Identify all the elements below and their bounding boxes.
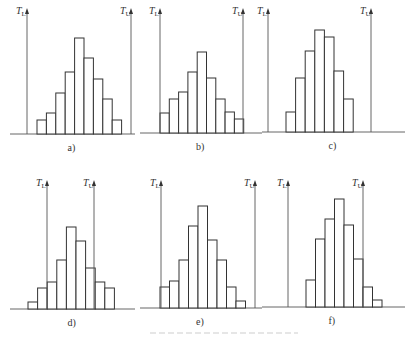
histogram-bar <box>105 288 115 309</box>
lower-limit-arrow-label: TL <box>257 5 267 18</box>
histogram-bar <box>216 99 225 133</box>
upper-limit-arrow-label: TU <box>244 177 255 190</box>
panel-c: TLTUc) <box>257 5 405 152</box>
histogram-bar <box>344 99 354 132</box>
histogram-bar <box>188 72 197 133</box>
histogram-bar <box>236 301 246 308</box>
histogram-figure: TLTUa)TLTUb)TLTUc)TLTUd)TLTUe)TLTUf) <box>0 0 409 338</box>
histogram-bar <box>93 79 102 134</box>
histogram-bar <box>76 241 86 309</box>
panel-a: TLTUa) <box>10 5 135 154</box>
histogram-bar <box>179 92 188 133</box>
histogram-bar <box>160 113 169 133</box>
upper-limit-arrow-label: TU <box>360 5 371 18</box>
panel-label: d) <box>68 317 76 329</box>
histogram-bar <box>95 282 105 309</box>
panel-f: TLTUf) <box>262 177 405 327</box>
histogram-bar <box>207 78 216 133</box>
histogram-bar <box>363 287 373 307</box>
panel-label: f) <box>329 315 336 327</box>
histogram-bar <box>286 112 296 132</box>
histogram-bar <box>334 71 344 132</box>
upper-limit-arrow-label: TU <box>352 177 363 190</box>
histogram-bar <box>189 226 199 308</box>
histogram-bar <box>354 259 364 307</box>
upper-limit-arrow-label: TU <box>83 177 94 190</box>
panel-label: e) <box>196 316 204 328</box>
histogram-bar <box>306 280 316 307</box>
histogram-bar <box>208 240 218 308</box>
histogram-bar <box>112 120 121 134</box>
histogram-bar <box>324 37 334 132</box>
panel-label: c) <box>329 140 337 152</box>
histogram-bar <box>170 281 180 308</box>
histogram-bar <box>234 119 243 133</box>
histogram-bar <box>169 99 178 133</box>
histogram-bar <box>179 260 189 308</box>
panel-label: b) <box>196 141 204 153</box>
histogram-bar <box>57 260 67 309</box>
histogram-bar <box>217 260 227 308</box>
histogram-bar <box>37 120 46 134</box>
histogram-bar <box>65 72 74 134</box>
lower-limit-arrow-label: TL <box>16 5 26 18</box>
histogram-bar <box>84 58 93 134</box>
histogram-bar <box>305 51 315 132</box>
histogram-bar <box>315 30 325 132</box>
histogram-bar <box>316 239 326 307</box>
panel-d: TLTUd) <box>10 177 135 329</box>
lower-limit-arrow-label: TL <box>277 177 287 190</box>
histogram-bar <box>38 288 48 309</box>
histogram-bar <box>56 93 65 134</box>
histogram-bar <box>103 99 112 134</box>
histogram-bar <box>197 52 206 133</box>
upper-limit-arrow-label: TU <box>232 5 243 18</box>
histogram-bar <box>28 302 38 309</box>
histogram-bar <box>335 199 345 307</box>
histogram-bar <box>325 219 335 307</box>
lower-limit-arrow-label: TL <box>149 5 159 18</box>
lower-limit-arrow-label: TL <box>36 177 46 190</box>
histogram-bar <box>198 206 208 308</box>
lower-limit-arrow-label: TL <box>150 177 160 190</box>
histogram-bar <box>47 282 57 309</box>
histogram-bar <box>227 287 237 308</box>
panel-b: TLTUb) <box>140 5 262 153</box>
panel-e: TLTUe) <box>140 177 262 328</box>
histogram-bar <box>373 300 383 307</box>
histogram-bar <box>75 38 84 134</box>
histogram-bar <box>46 113 55 134</box>
histogram-bar <box>225 112 234 133</box>
upper-limit-arrow-label: TU <box>120 5 131 18</box>
histogram-bar <box>66 227 76 309</box>
panel-label: a) <box>68 142 76 154</box>
histogram-bar <box>296 78 306 132</box>
histogram-bar <box>344 225 354 307</box>
